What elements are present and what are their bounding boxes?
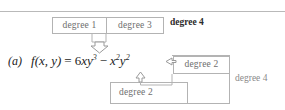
degree-3-annotation-box: degree 3 [106, 17, 164, 34]
degree-2-bottom-annotation-box: degree 2 [110, 82, 188, 104]
minus-operator: − [100, 53, 107, 68]
degree-annotation-figure: degree 1 degree 3 degree 4 degree 4 degr… [0, 0, 285, 110]
degree-4-top-label: degree 4 [170, 18, 204, 28]
up-block-arrow-icon [136, 72, 145, 82]
degree-2-right-annotation-box: degree 2 [173, 56, 230, 74]
down-block-arrow-icon [91, 42, 108, 53]
figure-part-label: (a) [8, 54, 22, 68]
degree-1-annotation-box: degree 1 [52, 17, 107, 34]
term1-y-exponent: 3 [93, 53, 97, 62]
function-args: (x, y) [35, 53, 62, 68]
degree-4-right-label: degree 4 [235, 74, 267, 84]
formula-expression: (a)f(x, y)=6xy3−x2y2 [8, 54, 130, 67]
equals-sign: = [64, 53, 71, 68]
term2-y-exponent: 2 [126, 53, 130, 62]
top-divider-rule [0, 11, 285, 12]
